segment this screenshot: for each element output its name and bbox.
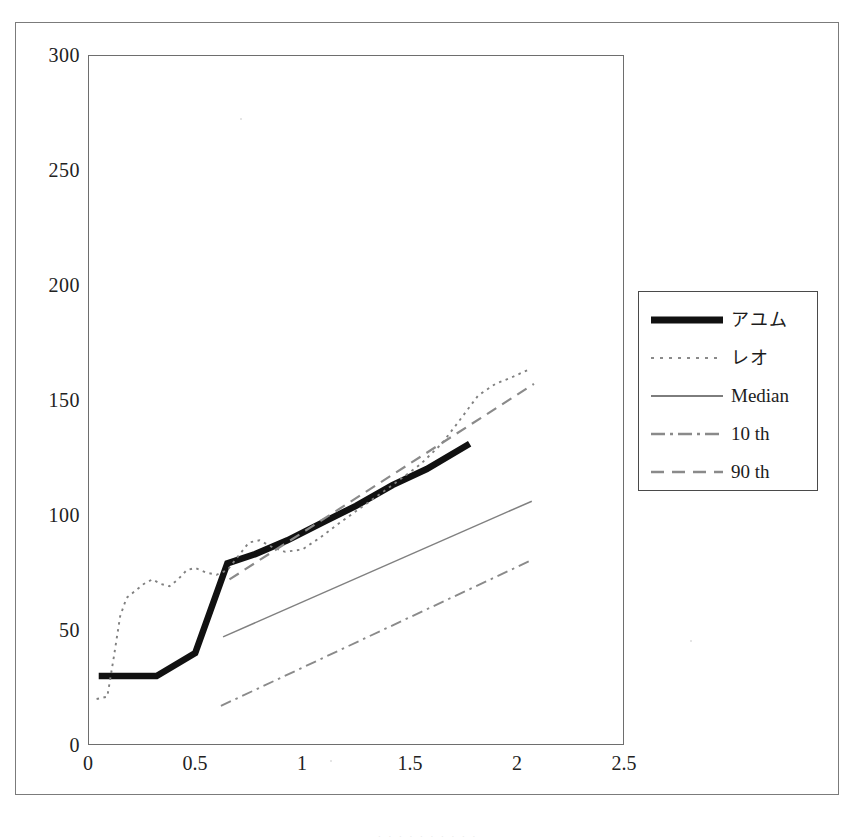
legend-label-10th: 10 th [731,424,770,444]
caption-remnant: . . . . . . . . . . [0,826,855,837]
y-tick-200: 200 [10,275,80,295]
y-tick-100: 100 [10,505,80,525]
x-tick-0: 0 [58,752,118,774]
series-line [221,561,530,706]
legend-label-leo: レオ [731,348,769,368]
x-tick-1.5: 1.5 [380,752,440,774]
y-tick-150: 150 [10,390,80,410]
legend-label-median: Median [731,386,789,406]
x-tick-0.5: 0.5 [165,752,225,774]
legend-label-ayumu: アユム [731,310,788,330]
y-tick-250: 250 [10,160,80,180]
legend-item-ayumu: アユム [639,301,817,339]
x-tick-2.5: 2.5 [594,752,654,774]
legend-item-leo: レオ [639,339,817,377]
series-line [223,501,532,637]
legend: アユム レオ Median 10 th [638,291,818,491]
legend-swatch-solid-icon [650,389,724,403]
scan-speckle [690,640,692,642]
figure-root: 300 250 200 150 100 50 0 0 0.5 1 1.5 2 2… [0,0,855,837]
plot-series-canvas [88,55,624,745]
y-tick-50: 50 [10,620,80,640]
legend-item-90th: 90 th [639,453,817,491]
y-axis-tick-labels: 300 250 200 150 100 50 0 [0,55,80,745]
series-line [230,384,534,580]
legend-item-median: Median [639,377,817,415]
x-tick-2: 2 [487,752,547,774]
x-tick-1: 1 [272,752,332,774]
legend-swatch-thick-solid-icon [650,313,724,327]
x-axis-tick-labels: 0 0.5 1 1.5 2 2.5 [88,752,624,782]
scan-speckle [330,760,332,762]
legend-swatch-dotted-icon [650,351,724,365]
legend-swatch-dash-dot-icon [650,427,724,441]
legend-swatch-dashed-icon [650,465,724,479]
legend-item-10th: 10 th [639,415,817,453]
series-line [99,444,470,676]
series-line [97,370,528,699]
y-tick-300: 300 [10,45,80,65]
legend-label-90th: 90 th [731,462,770,482]
scan-speckle [240,118,242,120]
